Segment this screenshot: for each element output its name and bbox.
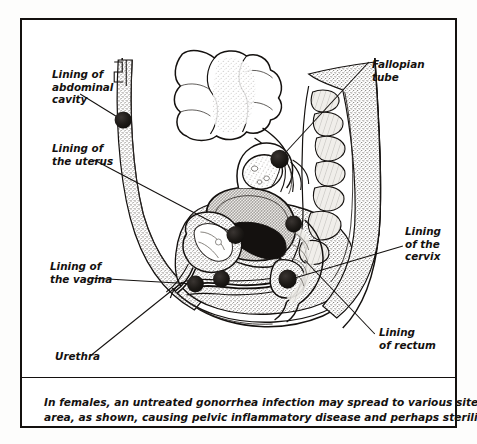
vertebra-1 bbox=[311, 90, 339, 112]
label-lining-of-the-cervix: Lining of the cervix bbox=[405, 225, 441, 263]
label-line: Urethra bbox=[55, 350, 100, 363]
figure-caption: In females, an untreated gonorrhea infec… bbox=[22, 377, 455, 424]
label-line: of rectum bbox=[379, 339, 436, 352]
label-line: Lining of bbox=[52, 142, 113, 155]
bladder-highlight bbox=[215, 239, 221, 245]
infection-marker-abdominal-cavity bbox=[115, 111, 132, 128]
ovary-follicle-2 bbox=[264, 176, 270, 181]
label-line: Lining of bbox=[52, 68, 113, 81]
infection-marker-cervix bbox=[278, 270, 296, 288]
vertebra-3 bbox=[315, 136, 345, 161]
infection-marker-uterus bbox=[226, 226, 244, 244]
figure-frame: Lining of abdominal cavity Lining of the… bbox=[20, 18, 457, 428]
ovary-follicle-3 bbox=[257, 180, 262, 184]
page-background: Lining of abdominal cavity Lining of the… bbox=[0, 0, 477, 444]
label-line: Lining of bbox=[50, 260, 112, 273]
label-line: the uterus bbox=[52, 155, 113, 168]
caption-line-2: area, as shown, causing pelvic inflammat… bbox=[44, 410, 433, 425]
caption-line-1: In females, an untreated gonorrhea infec… bbox=[44, 395, 433, 410]
label-lining-of-the-vagina: Lining of the vagina bbox=[50, 260, 112, 285]
infection-marker-rectum bbox=[285, 216, 302, 233]
vertebra-4 bbox=[315, 161, 345, 186]
vertebra-2 bbox=[313, 112, 343, 136]
label-urethra: Urethra bbox=[55, 350, 100, 363]
label-line: of the bbox=[405, 238, 441, 251]
label-line: Lining bbox=[379, 326, 436, 339]
leader-urethra bbox=[90, 282, 182, 356]
label-line: Fallopian bbox=[372, 58, 425, 71]
label-line: tube bbox=[372, 71, 425, 84]
ovary-follicle-1 bbox=[251, 166, 257, 171]
infection-marker-urethra bbox=[213, 271, 230, 288]
label-lining-of-abdominal-cavity: Lining of abdominal cavity bbox=[52, 68, 113, 106]
label-line: the vagina bbox=[50, 273, 112, 286]
label-line: cavity bbox=[52, 93, 113, 106]
label-lining-of-the-uterus: Lining of the uterus bbox=[52, 142, 113, 167]
vertebra-5 bbox=[313, 186, 344, 211]
label-line: abdominal bbox=[52, 81, 113, 94]
infection-marker-vagina bbox=[187, 276, 204, 293]
label-fallopian-tube: Fallopian tube bbox=[372, 58, 425, 83]
ovary-fallopian-group bbox=[237, 143, 309, 194]
label-lining-of-rectum: Lining of rectum bbox=[379, 326, 436, 351]
figure-illustration-area: Lining of abdominal cavity Lining of the… bbox=[22, 20, 455, 376]
label-line: cervix bbox=[405, 250, 441, 263]
infection-marker-fallopian-tube bbox=[270, 150, 288, 168]
label-line: Lining bbox=[405, 225, 441, 238]
